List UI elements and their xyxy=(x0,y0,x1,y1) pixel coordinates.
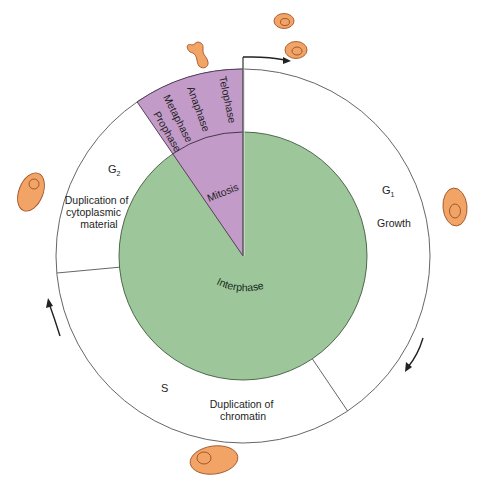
g2-cell-icon xyxy=(12,169,49,215)
top-arrow xyxy=(243,57,285,60)
left-arrow-head xyxy=(46,298,53,308)
right-arrow xyxy=(408,338,423,367)
top-arrow-head xyxy=(283,57,291,64)
g1-cell-icon xyxy=(441,187,468,227)
cell-cycle-diagram: Telophase Anaphase Metaphase Prophase Mi… xyxy=(0,0,482,488)
left-arrow xyxy=(50,306,60,336)
label-s: S xyxy=(161,382,168,394)
daughter-cell-1-icon xyxy=(274,14,294,29)
g1-description: Growth xyxy=(377,217,411,229)
daughter-cell-2-icon xyxy=(285,42,307,59)
s-cell-icon xyxy=(188,443,239,477)
dividing-cell-icon xyxy=(187,42,208,68)
